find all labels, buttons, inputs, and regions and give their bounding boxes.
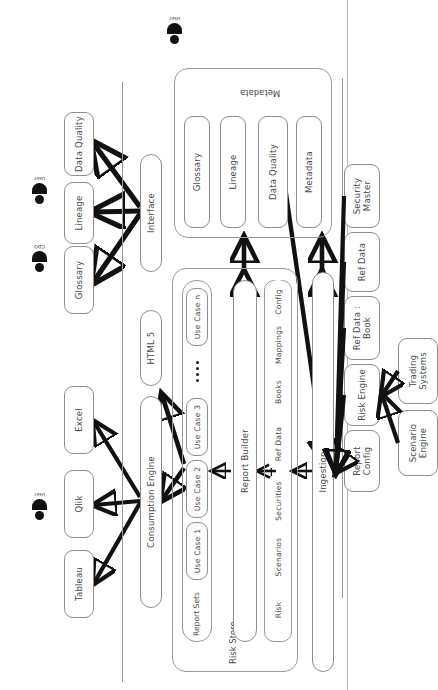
diagram-rotation-wrapper: User CDO User User Tableau Qlik Excel — [12, 0, 348, 690]
architecture-diagram: User CDO User User Tableau Qlik Excel — [12, 0, 348, 690]
feeder-trading-systems[interactable]: Trading Systems — [398, 338, 438, 404]
computed-connectors — [12, 0, 348, 690]
source-ref-data-book[interactable]: Ref Data : Book — [344, 296, 380, 360]
source-security-master[interactable]: Security Master — [344, 164, 380, 228]
source-report-config[interactable]: Report Config — [344, 430, 380, 492]
source-ref-data[interactable]: Ref Data — [344, 232, 380, 292]
feeder-scenario-engine[interactable]: Scenario Engine — [398, 410, 438, 476]
source-risk-engine[interactable]: Risk Engine — [344, 364, 380, 426]
